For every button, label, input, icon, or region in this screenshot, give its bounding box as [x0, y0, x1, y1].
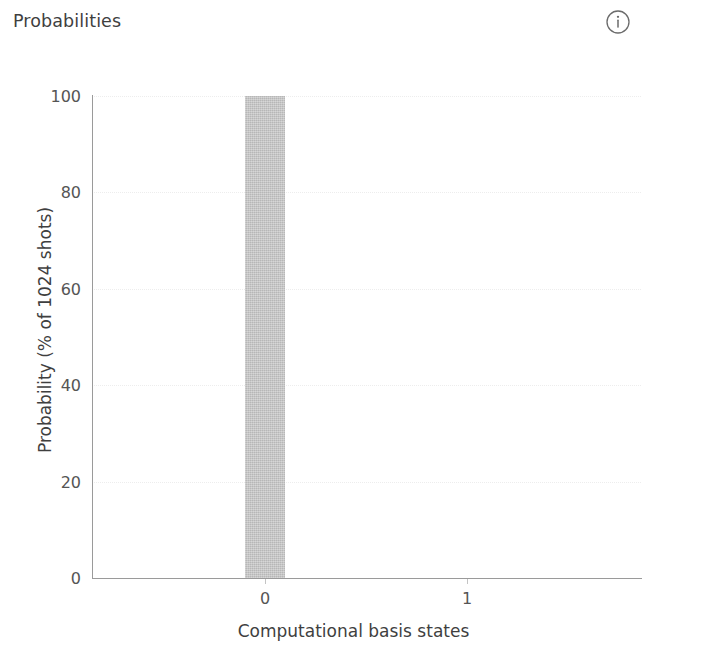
gridline-60	[92, 289, 641, 290]
x-tick-label: 0	[260, 589, 270, 608]
y-axis-title: Probability (% of 1024 shots)	[35, 130, 55, 530]
y-tick-label: 100	[50, 87, 81, 106]
gridline-40	[92, 385, 641, 386]
y-tick-label: 20	[61, 473, 81, 492]
page-title: Probabilities	[13, 11, 121, 31]
probabilities-bar-chart: 100 80 60 40 20 0 0 1 Computational basi…	[0, 56, 707, 655]
y-tick-label: 0	[71, 569, 81, 588]
gridline-20	[92, 482, 641, 483]
x-axis-title: Computational basis states	[0, 621, 707, 641]
y-tick-label: 60	[61, 280, 81, 299]
gridline-80	[92, 192, 641, 193]
y-tick-label: 40	[61, 376, 81, 395]
y-axis-spine	[92, 95, 93, 579]
x-tick-label: 1	[462, 589, 472, 608]
x-tick-mark-0	[265, 579, 266, 584]
gridline-100	[92, 96, 641, 97]
y-tick-label: 80	[61, 183, 81, 202]
plot-area	[92, 96, 641, 578]
panel-header: Probabilities	[0, 0, 707, 56]
bar-state-0[interactable]	[245, 96, 285, 578]
info-circle-icon[interactable]	[605, 9, 631, 35]
x-tick-mark-1	[467, 579, 468, 584]
x-axis-spine	[92, 578, 642, 579]
